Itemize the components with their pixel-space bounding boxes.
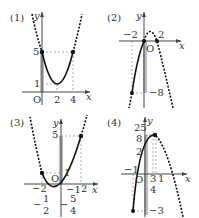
tick-x-minus-1: −1 — [124, 164, 139, 175]
panel-label: (3) — [10, 117, 24, 128]
origin-label: O — [51, 173, 59, 184]
vertex-x-denominator: 2 — [43, 205, 49, 216]
tick-x-2: 2 — [81, 183, 87, 194]
vertex-x-numerator: 1 — [43, 193, 49, 204]
tick-x-4: 4 — [70, 94, 76, 105]
max-y-denominator: 8 — [136, 133, 142, 144]
tick-y-1: 1 — [64, 167, 70, 178]
graph-panel-1: (1) y x O 5 1 2 4 — [0, 0, 100, 109]
vertex-y-numerator: 5 — [70, 193, 76, 204]
vertex-y-sign: − — [60, 199, 68, 210]
y-axis-label: y — [136, 10, 142, 21]
x-axis-label: x — [92, 184, 98, 195]
origin-label: O — [135, 174, 143, 185]
tick-x-1: 1 — [158, 173, 164, 184]
graph-panel-3: (3) y x O 5 1 −2 2 −1 − 1 2 − 5 4 — [0, 109, 100, 218]
tick-x-minus-2: −2 — [123, 29, 138, 40]
tick-y-minus-3: −3 — [149, 205, 164, 216]
y-axis-label: y — [34, 10, 40, 21]
x-axis-label: x — [179, 40, 185, 51]
tick-y-5: 5 — [33, 46, 39, 57]
origin-label: O — [146, 43, 154, 54]
vertex-x-sign: − — [33, 199, 41, 210]
tick-x-2: 2 — [158, 29, 164, 40]
max-y-numerator: 25 — [134, 122, 147, 133]
vertex-x-denominator: 4 — [150, 184, 156, 195]
y-axis-label: y — [53, 117, 59, 128]
x-axis-label: x — [185, 173, 191, 184]
tick-y-minus-8: −8 — [149, 87, 164, 98]
panel-label: (4) — [107, 117, 121, 128]
vertex-y-denominator: 4 — [70, 205, 76, 216]
tick-y-1: 1 — [34, 78, 40, 89]
vertex-x-numerator: 3 — [150, 173, 156, 184]
y-axis-label: y — [147, 115, 153, 126]
graph-panel-4: (4) y x O 25 8 2 −1 3 4 1 −3 — [99, 109, 199, 218]
panel-label: (2) — [107, 12, 121, 23]
graph-panel-2: (2) y x O −2 2 −8 — [99, 0, 199, 109]
origin-label: O — [33, 94, 41, 105]
x-axis-label: x — [86, 91, 92, 102]
tick-x-2: 2 — [54, 94, 60, 105]
panel-label: (1) — [10, 12, 24, 23]
tick-y-5: 5 — [52, 129, 58, 140]
tick-y-2: 2 — [136, 146, 142, 157]
